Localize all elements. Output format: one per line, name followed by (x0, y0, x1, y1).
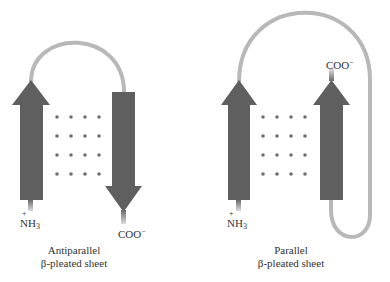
beta-sheet-figure (0, 0, 390, 282)
antiparallel-c-terminal-tail (121, 210, 126, 224)
parallel-strand-right-up-arrow (313, 80, 350, 200)
parallel-c-terminus-label: COO− (326, 59, 354, 71)
antiparallel-n-terminus-label: +NH3 (20, 218, 40, 231)
antiparallel-caption: Antiparallel β-pleated sheet (14, 244, 134, 270)
parallel-sheet (221, 13, 370, 237)
parallel-connecting-loop (239, 13, 370, 237)
antiparallel-strand-up-arrow (12, 80, 50, 200)
parallel-caption: Parallel β-pleated sheet (231, 244, 351, 270)
parallel-hydrogen-bond-dots (261, 115, 307, 176)
parallel-strand-left-up-arrow (221, 80, 257, 200)
antiparallel-strand-down-arrow (105, 92, 142, 212)
antiparallel-c-terminus-label: COO− (118, 228, 146, 240)
antiparallel-sheet (12, 43, 142, 224)
parallel-n-terminal-tail (236, 200, 241, 211)
antiparallel-hydrogen-bond-dots (55, 115, 101, 176)
antiparallel-connecting-loop (31, 43, 124, 92)
antiparallel-n-terminal-tail (28, 200, 33, 211)
parallel-n-terminus-label: +NH3 (227, 218, 247, 231)
